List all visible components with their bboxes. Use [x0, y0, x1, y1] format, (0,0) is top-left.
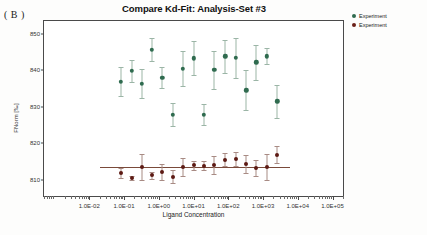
data-point[interactable]	[234, 157, 238, 161]
y-tick-label: 810	[30, 177, 40, 183]
error-bar-cap	[140, 180, 145, 181]
y-tick-mark	[41, 106, 44, 107]
legend-item[interactable]: Experiment	[352, 13, 387, 19]
data-point[interactable]	[181, 165, 185, 169]
x-tick-minor	[141, 196, 142, 199]
legend-marker-icon	[352, 14, 356, 18]
x-tick-minor	[188, 196, 189, 199]
data-point[interactable]	[275, 99, 279, 103]
data-point[interactable]	[265, 165, 269, 169]
data-point[interactable]	[244, 88, 248, 92]
data-point[interactable]	[160, 170, 164, 174]
data-point[interactable]	[130, 68, 134, 72]
x-tick-minor	[122, 196, 123, 199]
error-bar-cap	[264, 64, 269, 65]
error-bar-cap	[233, 38, 238, 39]
data-point[interactable]	[275, 153, 279, 157]
error-bar-cap	[223, 153, 228, 154]
error-bar-cap	[118, 67, 123, 68]
x-tick-mark	[263, 196, 264, 200]
x-tick-minor	[183, 196, 184, 199]
x-tick-minor	[65, 196, 66, 199]
x-tick-minor	[153, 196, 154, 199]
data-point[interactable]	[254, 166, 258, 170]
data-point[interactable]	[191, 56, 195, 60]
x-tick-minor	[180, 196, 181, 199]
legend-label: Experiment	[359, 13, 387, 19]
data-point[interactable]	[254, 60, 258, 64]
error-bar-cap	[170, 103, 175, 104]
data-point[interactable]	[140, 165, 144, 169]
x-tick-minor	[84, 196, 85, 199]
x-tick-mark	[298, 196, 299, 200]
x-tick-minor	[106, 196, 107, 199]
x-tick-label: 1.0E+00	[147, 203, 170, 209]
data-point[interactable]	[140, 82, 144, 86]
data-point[interactable]	[171, 175, 175, 179]
error-bar-cap	[191, 170, 196, 171]
x-tick-minor	[169, 196, 170, 199]
y-tick-label: 830	[30, 104, 40, 110]
error-bar-cap	[212, 89, 217, 90]
data-point[interactable]	[265, 54, 269, 58]
data-point[interactable]	[130, 176, 134, 180]
data-point[interactable]	[223, 158, 227, 162]
y-tick-label: 840	[30, 67, 40, 73]
error-bar-cap	[149, 38, 154, 39]
figure-panel: ( B ) Compare Kd-Fit: Analysis-Set #3 FN…	[0, 0, 427, 235]
error-bar-cap	[191, 161, 196, 162]
error-bar-cap	[275, 146, 280, 147]
x-tick-minor	[284, 196, 285, 199]
x-tick-minor	[134, 196, 135, 199]
x-tick-minor	[114, 196, 115, 199]
error-bar-cap	[140, 98, 145, 99]
error-bar-cap	[201, 125, 206, 126]
data-point[interactable]	[119, 171, 123, 175]
error-bar-cap	[212, 174, 217, 175]
x-tick-minor	[331, 196, 332, 199]
x-tick-minor	[192, 196, 193, 199]
data-point[interactable]	[223, 54, 227, 58]
y-tick-label: 850	[30, 31, 40, 37]
error-bar-cap	[160, 67, 165, 68]
error-bar-cap	[244, 110, 249, 111]
error-bar-cap	[149, 179, 154, 180]
data-point[interactable]	[170, 112, 174, 116]
data-point[interactable]	[212, 68, 216, 72]
x-tick-minor	[47, 196, 48, 199]
data-point[interactable]	[149, 48, 153, 52]
data-point[interactable]	[119, 79, 123, 83]
data-point[interactable]	[212, 163, 216, 167]
error-bar-cap	[181, 51, 186, 52]
x-tick-minor	[292, 196, 293, 199]
error-bar-cap	[170, 170, 175, 171]
x-tick-minor	[245, 196, 246, 199]
x-tick-minor	[287, 196, 288, 199]
x-tick-minor	[280, 196, 281, 199]
x-tick-minor	[325, 196, 326, 199]
error-bar-cap	[118, 178, 123, 179]
x-tick-minor	[204, 196, 205, 199]
legend-item[interactable]: Experiment	[352, 22, 387, 28]
panel-label: ( B )	[4, 9, 25, 20]
x-tick-minor	[210, 196, 211, 199]
x-tick-mark	[194, 196, 195, 200]
x-tick-minor	[157, 196, 158, 199]
data-point[interactable]	[192, 163, 196, 167]
data-point[interactable]	[244, 162, 248, 166]
x-tick-minor	[221, 196, 222, 199]
data-point[interactable]	[202, 112, 206, 116]
error-bar-cap	[254, 176, 259, 177]
data-point[interactable]	[160, 76, 164, 80]
error-bar-cap	[212, 51, 217, 52]
legend-marker-icon	[352, 23, 356, 27]
x-tick-minor	[186, 196, 187, 199]
error-bar-cap	[118, 168, 123, 169]
x-tick-minor	[119, 196, 120, 199]
data-point[interactable]	[234, 56, 238, 60]
data-point[interactable]	[181, 67, 185, 71]
data-point[interactable]	[202, 164, 206, 168]
data-point[interactable]	[150, 173, 154, 177]
error-bar-cap	[233, 78, 238, 79]
x-tick-minor	[175, 196, 176, 199]
